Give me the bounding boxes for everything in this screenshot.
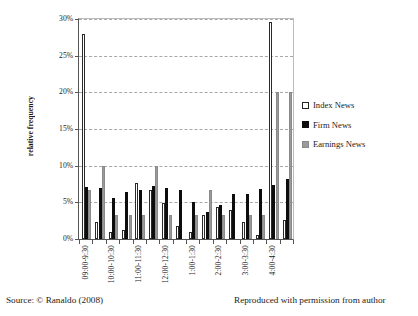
x-tick-mark [226, 240, 227, 244]
y-tick-mark [75, 202, 79, 203]
bar-earn [88, 190, 91, 239]
bar-group [241, 19, 254, 239]
legend-swatch-earn-icon [302, 141, 309, 148]
y-tick-label: 30% [59, 15, 73, 23]
legend-item-firm: Firm News [302, 121, 365, 130]
bar-group [267, 19, 280, 239]
y-tick-label: 10% [59, 162, 73, 170]
x-axis-labels: 09:00-9:3010:00-10:3011:00-11:3012:00-12… [78, 245, 294, 297]
x-tick-mark [213, 240, 214, 244]
bar-earn [289, 92, 292, 239]
x-tick-label: 12:00-12:30 [162, 245, 169, 283]
x-tick-label: 11:00-11:30 [135, 245, 142, 283]
bar-groups [80, 19, 292, 239]
bar-earn [102, 166, 105, 239]
legend-swatch-firm-icon [302, 121, 309, 128]
x-tick-mark [79, 240, 80, 244]
y-tick-mark [75, 129, 79, 130]
x-tick-label: 2:00-2:30 [215, 245, 222, 276]
y-tick-mark [75, 19, 79, 20]
y-tick-label: 20% [59, 89, 73, 97]
legend-label: Earnings News [313, 140, 365, 149]
bar-group [281, 19, 294, 239]
x-tick-mark [159, 240, 160, 244]
bar-group [107, 19, 120, 239]
y-tick-label: 15% [59, 125, 73, 133]
bar-group [200, 19, 213, 239]
x-tick-mark [173, 240, 174, 244]
x-tick-label: 09:00-9:30 [82, 245, 89, 279]
bar-earn [115, 215, 118, 239]
x-tick-mark [106, 240, 107, 244]
y-tick-label: 25% [59, 52, 73, 60]
bar-earn [129, 215, 132, 239]
x-tick-mark [146, 240, 147, 244]
bar-group [147, 19, 160, 239]
x-tick-mark [240, 240, 241, 244]
y-tick-label: 0% [63, 235, 73, 243]
x-tick-label: 10:00-10:30 [108, 245, 115, 283]
legend-item-earn: Earnings News [302, 140, 365, 149]
bar-earn [222, 215, 225, 239]
source-note: Source: © Ranaldo (2008) [6, 295, 103, 305]
figure-container: relative frequency 0%5%10%15%20%25%30% 0… [0, 0, 418, 316]
x-tick-label: 3:00-3:30 [242, 245, 249, 276]
bar-group [93, 19, 106, 239]
bar-group [134, 19, 147, 239]
y-axis-title: relative frequency [26, 96, 35, 156]
bar-earn [249, 215, 252, 239]
bar-firm [232, 194, 235, 239]
y-tick-mark [75, 56, 79, 57]
legend-swatch-index-icon [302, 102, 309, 109]
x-tick-mark [266, 240, 267, 244]
bar-earn [262, 215, 265, 239]
x-tick-mark [199, 240, 200, 244]
bar-earn [155, 166, 158, 239]
x-tick-mark [253, 240, 254, 244]
x-tick-mark [133, 240, 134, 244]
y-tick-mark [75, 166, 79, 167]
x-tick-mark [92, 240, 93, 244]
legend-label: Firm News [313, 121, 351, 130]
bar-earn [195, 215, 198, 239]
x-tick-mark [186, 240, 187, 244]
x-tick-mark [280, 240, 281, 244]
legend-label: Index News [313, 101, 354, 110]
x-tick-label: 1:00-1:30 [189, 245, 196, 276]
bar-earn [142, 215, 145, 239]
bar-group [174, 19, 187, 239]
bar-group [227, 19, 240, 239]
plot-area: 0%5%10%15%20%25%30% [78, 18, 294, 240]
bar-group [160, 19, 173, 239]
bar-earn [276, 92, 279, 239]
x-tick-label: 4:00-4:30 [269, 245, 276, 276]
bar-group [120, 19, 133, 239]
bar-earn [169, 215, 172, 239]
bar-group [214, 19, 227, 239]
legend: Index NewsFirm NewsEarnings News [302, 101, 365, 160]
x-tick-mark [119, 240, 120, 244]
footer: Source: © Ranaldo (2008) Reproduced with… [0, 295, 418, 309]
bar-group [254, 19, 267, 239]
bar-earn [209, 190, 212, 239]
bar-firm [179, 190, 182, 239]
y-tick-mark [75, 92, 79, 93]
y-tick-label: 5% [63, 199, 73, 207]
bar-group [187, 19, 200, 239]
legend-item-index: Index News [302, 101, 365, 110]
x-tick-mark [293, 240, 294, 244]
permission-note: Reproduced with permission from author [234, 295, 386, 305]
bar-group [80, 19, 93, 239]
